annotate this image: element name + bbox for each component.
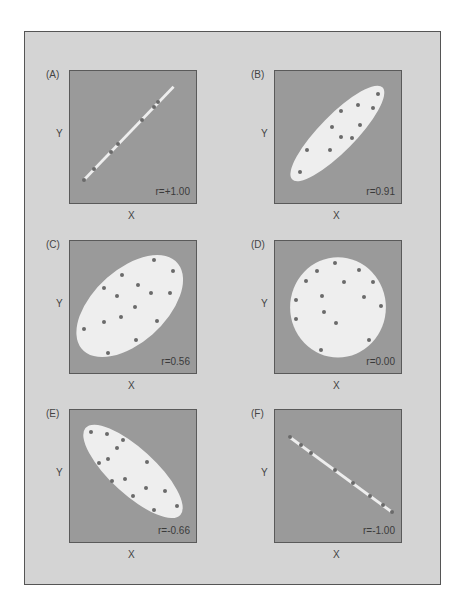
data-point [82,178,86,182]
x-axis-label: X [128,549,135,560]
data-point [357,268,361,272]
data-point [305,148,309,152]
panel-label: (E) [46,408,59,419]
data-point [288,435,292,439]
region-shape [275,410,401,542]
data-point [376,92,380,96]
correlation-label: r=0.56 [161,356,190,367]
scatter-plot: r=-0.66 [69,409,197,543]
panel-label: (D) [251,239,265,250]
data-point [131,494,135,498]
y-axis-label: Y [56,298,63,309]
data-point [339,135,343,139]
regression-line [84,87,174,180]
correlation-label: r=-1.00 [363,525,395,536]
region-shape [70,71,196,203]
data-point [120,273,124,277]
panel-a: (A) Y r=+1.00 X [24,61,224,231]
panel-label: (B) [251,69,264,80]
data-point [328,148,332,152]
panel-b: (B) Y r=0.91 X [229,61,429,231]
scatter-envelope [71,411,195,532]
data-point [116,142,120,146]
y-axis-label: Y [261,467,268,478]
data-point [149,291,153,295]
panel-label: (C) [46,239,60,250]
data-point [333,261,337,265]
data-point [152,508,156,512]
data-point [322,310,326,314]
data-point [82,327,86,331]
x-axis-label: X [333,549,340,560]
data-point [106,457,110,461]
data-point [102,286,106,290]
data-point [152,105,156,109]
x-axis-label: X [333,380,340,391]
y-axis-label: Y [261,128,268,139]
data-point [115,446,119,450]
panel-c: (C) Y r=0.56 X [24,231,224,401]
scatter-plot: r=-1.00 [274,409,402,543]
y-axis-label: Y [261,298,268,309]
scatter-plot: r=0.56 [69,240,197,374]
panel-d: (D) Y r=0.00 X [229,231,429,401]
scatter-plot: r=+1.00 [69,70,197,204]
x-axis-label: X [128,380,135,391]
data-point [109,150,113,154]
data-point [106,351,110,355]
data-point [105,432,109,436]
x-axis-label: X [128,210,135,221]
data-point [119,315,123,319]
panel-label: (A) [46,69,59,80]
y-axis-label: Y [56,467,63,478]
correlation-label: r=-0.66 [158,525,190,536]
data-point [356,103,360,107]
data-point [163,489,167,493]
data-point [304,279,308,283]
scatter-plot: r=0.91 [274,70,402,204]
panel-e: (E) Y r=-0.66 X [24,400,224,570]
correlation-label: r=0.91 [366,186,395,197]
data-point [379,304,383,308]
panel-label: (F) [251,408,264,419]
data-point [102,320,106,324]
data-point [371,280,375,284]
data-point [175,504,179,508]
x-axis-label: X [333,210,340,221]
scatter-envelope [290,257,386,357]
regression-line [289,437,392,513]
correlation-label: r=0.00 [366,356,395,367]
data-point [155,319,159,323]
correlation-label: r=+1.00 [156,186,190,197]
scatter-plot: r=0.00 [274,240,402,374]
panel-f: (F) Y r=-1.00 X [229,400,429,570]
y-axis-label: Y [56,128,63,139]
